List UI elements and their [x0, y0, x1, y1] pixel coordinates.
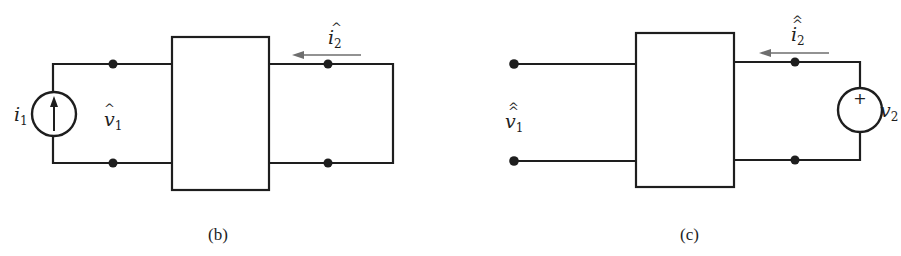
terminal-c-1-bottom [509, 156, 519, 166]
caption-c: (c) [680, 225, 699, 244]
terminal-b-2-bottom [324, 159, 333, 168]
panel-b: i1 ^ v1 ^ i2 (b) [14, 20, 393, 244]
label-v1-hat: v1 [104, 108, 122, 133]
terminal-c-2-bottom [791, 156, 800, 165]
panel-c: + ^^ v1 ^^ i2 v2 (c) [505, 13, 898, 244]
plus-sign-icon: + [853, 89, 866, 108]
current-arrowhead-c-icon [759, 49, 771, 57]
label-i1: i1 [14, 103, 28, 128]
two-port-diagram: i1 ^ v1 ^ i2 (b) + ^^ [0, 0, 901, 256]
label-v2: v2 [880, 99, 898, 124]
terminal-b-2-top [324, 60, 333, 69]
label-v1-double-hat: v1 [505, 110, 523, 135]
current-arrowhead-b-icon [292, 51, 304, 59]
terminal-b-1-top [109, 60, 118, 69]
terminal-b-1-bottom [109, 159, 118, 168]
caption-b: (b) [208, 225, 228, 244]
two-port-box-c [636, 33, 734, 187]
wire-c-right-bottom [734, 133, 860, 160]
wire-b-right-short [269, 64, 393, 163]
two-port-box-b [172, 37, 269, 190]
terminal-c-2-top [791, 58, 800, 67]
terminal-c-1-top [509, 59, 519, 69]
